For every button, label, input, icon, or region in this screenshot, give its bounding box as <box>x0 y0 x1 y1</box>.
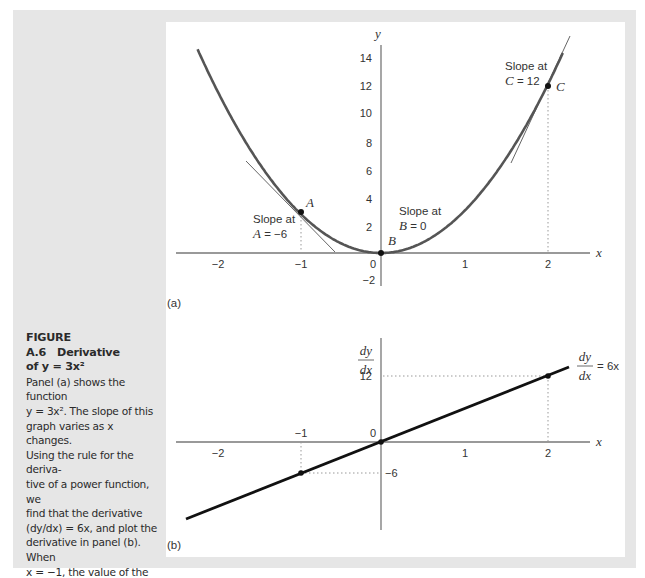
annotation-c-line2: C = 12 <box>505 73 540 88</box>
annotation-c-line1: Slope at <box>505 60 548 72</box>
y-tick-0-b: 0 <box>370 427 376 439</box>
y-tick-8: 8 <box>366 137 372 149</box>
annotation-a: Slope at A = −6 <box>252 213 296 241</box>
y-tick-neg6-b: −6 <box>385 467 398 479</box>
derivative-line-label: dy dx = 6x <box>577 349 619 383</box>
y-tick-14: 14 <box>360 52 372 64</box>
x-axis-label-b: x <box>595 434 602 449</box>
panel-b: x dy dx 12 0 −6 −1 −2 1 2 dy dx = 6x (b) <box>167 338 619 551</box>
point-neg1 <box>298 470 304 476</box>
annotation-b-value: = 0 <box>410 220 426 232</box>
x-tick-2-b: 2 <box>545 447 551 459</box>
panel-a-label: (a) <box>167 297 181 309</box>
panel-a: x y 14 12 10 8 6 4 2 −2 −2 −1 0 1 2 A B … <box>167 26 602 309</box>
annotation-c: Slope at C = 12 <box>505 60 548 88</box>
y-tick-6: 6 <box>366 165 372 177</box>
x-axis-label-a: x <box>595 245 602 260</box>
figure-svg: x y 14 12 10 8 6 4 2 −2 −2 −1 0 1 2 A B … <box>0 0 645 578</box>
annotation-c-var: C <box>505 73 514 88</box>
y-tick-12: 12 <box>360 80 372 92</box>
label-b: B <box>388 233 396 248</box>
y-tick-10: 10 <box>360 107 372 119</box>
point-2 <box>545 373 551 379</box>
annotation-b-line1: Slope at <box>399 205 442 217</box>
y-tick-4: 4 <box>366 193 372 205</box>
annotation-a-line2: A = −6 <box>252 226 287 241</box>
point-b <box>378 250 384 256</box>
line-label-num: dy <box>579 349 592 364</box>
y-tick-2: 2 <box>366 221 372 233</box>
annotation-b-var: B <box>399 218 407 233</box>
point-origin <box>378 439 384 445</box>
x-tick-neg2-b: −2 <box>212 447 225 459</box>
line-label-rhs: = 6x <box>597 360 619 372</box>
annotation-b-line2: B = 0 <box>399 218 426 233</box>
point-a <box>298 209 304 215</box>
annotation-a-value: = −6 <box>264 228 287 240</box>
y-tick-12-b: 12 <box>360 370 372 382</box>
x-tick-1: 1 <box>462 258 468 270</box>
panel-b-label: (b) <box>167 539 181 551</box>
y-tick-neg2: −2 <box>362 274 375 286</box>
annotation-a-var: A <box>252 226 261 241</box>
x-tick-neg1-b: −1 <box>295 427 308 439</box>
label-c: C <box>556 79 565 94</box>
y-axis-label-b-num: dy <box>360 343 373 358</box>
x-tick-1-b: 1 <box>462 447 468 459</box>
x-tick-neg2: −2 <box>212 258 225 270</box>
y-axis-label-a: y <box>373 26 381 41</box>
point-c <box>545 83 551 89</box>
annotation-c-value: = 12 <box>517 75 540 87</box>
x-tick-2: 2 <box>545 258 551 270</box>
x-tick-0: 0 <box>370 258 376 270</box>
annotation-b: Slope at B = 0 <box>399 205 442 233</box>
x-tick-neg1: −1 <box>295 258 308 270</box>
derivative-line <box>186 367 569 519</box>
line-label-den: dx <box>579 368 592 383</box>
annotation-a-line1: Slope at <box>253 213 296 225</box>
label-a: A <box>305 195 314 210</box>
